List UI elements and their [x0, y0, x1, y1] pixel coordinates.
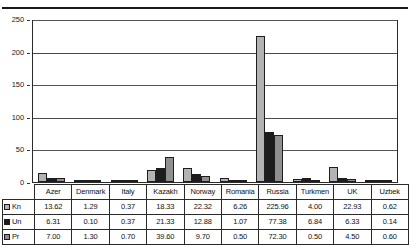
y-tick-mark — [27, 85, 30, 86]
table-cell: 0.10 — [72, 215, 109, 230]
bar-group — [288, 21, 324, 182]
y-tick-label: 200 — [12, 49, 24, 57]
table-cell: 6.31 — [35, 215, 72, 230]
y-tick-mark — [27, 118, 30, 119]
table-column-header: Uzbek — [371, 185, 408, 200]
bar-group — [179, 21, 215, 182]
table-cell: 77.38 — [259, 215, 296, 230]
table-column-header: Russia — [259, 185, 296, 200]
bar-group — [361, 21, 397, 182]
legend-label: Kn — [12, 203, 21, 211]
table-cell: 225.96 — [259, 200, 296, 215]
bar-pr-romania — [238, 180, 247, 182]
bar-un-russia — [265, 132, 274, 182]
y-tick-label: 150 — [12, 81, 24, 89]
bar-kn-russia — [256, 36, 265, 182]
bar-un-kazakh — [156, 168, 165, 182]
y-axis: 050100150200250 — [0, 20, 30, 183]
table-column-header: Kazakh — [147, 185, 184, 200]
bar-kn-azer — [38, 173, 47, 182]
table-cell: 0.37 — [109, 215, 146, 230]
bar-group — [142, 21, 178, 182]
table-cell: 39.60 — [147, 230, 184, 245]
table-column-header: Romania — [221, 185, 258, 200]
light-gray-swatch — [4, 204, 10, 210]
table-cell: 6.26 — [221, 200, 258, 215]
y-tick-mark — [27, 150, 30, 151]
table-cell: 0.62 — [371, 200, 408, 215]
bar-un-norway — [192, 174, 201, 182]
bar-group — [324, 21, 360, 182]
y-tick-mark — [27, 20, 30, 21]
table-cell: 13.62 — [35, 200, 72, 215]
table-row: Pr7.001.300.7039.609.700.5072.300.504.50… — [3, 230, 409, 245]
bar-kn-italy — [111, 180, 120, 182]
table-column-header: Norway — [184, 185, 221, 200]
bar-group — [69, 21, 105, 182]
table-cell: 22.93 — [334, 200, 371, 215]
table-column-header: Azer — [35, 185, 72, 200]
legend-cell-un: Un — [3, 215, 35, 230]
medium-gray-swatch — [4, 234, 10, 240]
table-cell: 22.32 — [184, 200, 221, 215]
y-tick-label: 100 — [12, 114, 24, 122]
bar-pr-norway — [201, 176, 210, 182]
table-column-header: Denmark — [72, 185, 109, 200]
bar-kn-uzbek — [365, 180, 374, 182]
bar-group — [106, 21, 142, 182]
bar-pr-azer — [56, 178, 65, 183]
table-cell: 0.37 — [109, 200, 146, 215]
bar-kn-kazakh — [147, 170, 156, 182]
bar-kn-romania — [220, 178, 229, 182]
bar-un-uzbek — [374, 180, 383, 182]
y-tick-label: 250 — [12, 16, 24, 24]
table-row: Un6.310.100.3721.3312.881.0777.386.846.3… — [3, 215, 409, 230]
bar-pr-russia — [274, 135, 283, 182]
bar-kn-norway — [183, 168, 192, 182]
chart-plot-region: 050100150200250 — [0, 20, 410, 185]
bar-pr-denmark — [92, 180, 101, 182]
table-cell: 4.50 — [334, 230, 371, 245]
table-row: Kn13.621.290.3718.3322.326.26225.964.002… — [3, 200, 409, 215]
bar-pr-turkmen — [311, 180, 320, 182]
table-cell: 1.30 — [72, 230, 109, 245]
bar-group — [33, 21, 69, 182]
legend-label: Un — [12, 218, 21, 226]
black-swatch — [4, 219, 10, 225]
bar-pr-italy — [129, 180, 138, 182]
bar-un-denmark — [83, 180, 92, 182]
table-column-header: Italy — [109, 185, 146, 200]
plot-area — [32, 20, 398, 183]
table-cell: 1.29 — [72, 200, 109, 215]
table-head: AzerDenmarkItalyKazakhNorwayRomaniaRussi… — [3, 185, 409, 200]
table-cell: 1.07 — [221, 215, 258, 230]
bar-pr-uk — [347, 179, 356, 182]
legend-cell-kn: Kn — [3, 200, 35, 215]
legend-label: Pr — [12, 233, 19, 241]
bar-pr-kazakh — [165, 157, 174, 183]
table-cell: 4.00 — [296, 200, 333, 215]
bar-un-turkmen — [302, 178, 311, 182]
table-cell: 0.70 — [109, 230, 146, 245]
table-cell: 0.60 — [371, 230, 408, 245]
bar-kn-turkmen — [293, 179, 302, 182]
bar-group — [251, 21, 287, 182]
bar-un-italy — [120, 180, 129, 182]
table-corner-cell — [3, 185, 35, 200]
bar-un-azer — [47, 178, 56, 182]
table-cell: 0.14 — [371, 215, 408, 230]
table-cell: 6.84 — [296, 215, 333, 230]
table-cell: 0.50 — [221, 230, 258, 245]
top-divider-rule — [2, 7, 408, 9]
table-cell: 72.30 — [259, 230, 296, 245]
bar-group — [215, 21, 251, 182]
table-cell: 0.50 — [296, 230, 333, 245]
table-column-header: UK — [334, 185, 371, 200]
legend-cell-pr: Pr — [3, 230, 35, 245]
data-table-region: AzerDenmarkItalyKazakhNorwayRomaniaRussi… — [2, 184, 408, 245]
bar-pr-uzbek — [383, 180, 392, 182]
table-cell: 7.00 — [35, 230, 72, 245]
data-table: AzerDenmarkItalyKazakhNorwayRomaniaRussi… — [2, 184, 409, 245]
y-tick-mark — [27, 53, 30, 54]
